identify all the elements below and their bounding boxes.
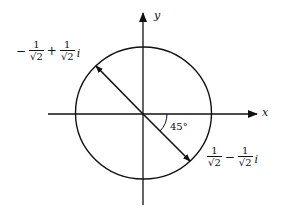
fraction: 1 √2 <box>238 145 253 169</box>
y-axis-label: y <box>154 10 160 21</box>
imaginary-unit: i <box>255 153 259 166</box>
complex-plane-diagram <box>0 0 286 213</box>
x-axis-label: x <box>262 107 268 118</box>
minus-sign: − <box>16 44 26 58</box>
angle-arc <box>160 114 167 131</box>
point-label-lower-right: 1 √2 − 1 √2 i <box>206 145 258 169</box>
imaginary-unit: i <box>77 47 81 60</box>
angle-label: 45° <box>170 121 188 132</box>
minus-sign: − <box>225 150 235 164</box>
vector-upper-left <box>96 66 143 114</box>
plus-sign: + <box>47 44 57 58</box>
fraction: 1 √2 <box>29 39 44 63</box>
fraction: 1 √2 <box>207 145 222 169</box>
fraction: 1 √2 <box>60 39 75 63</box>
point-label-upper-left: − 1 √2 + 1 √2 i <box>14 39 80 63</box>
